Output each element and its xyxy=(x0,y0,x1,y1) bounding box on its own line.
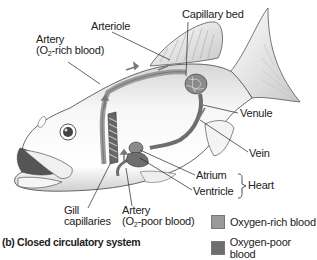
heart-bracket xyxy=(238,174,246,198)
legend-label: Oxygen-poor blood xyxy=(230,236,317,260)
label-vein: Vein xyxy=(249,147,270,159)
gill-capillaries xyxy=(108,112,118,164)
label-arteriole: Arteriole xyxy=(91,20,130,32)
legend-label: Oxygen-rich blood xyxy=(230,216,316,228)
label-heart: Heart xyxy=(248,179,274,191)
label-venule: Venule xyxy=(240,107,272,119)
legend-item-oxygen-poor: Oxygen-poor blood xyxy=(211,236,317,260)
label-artery-rich-line2: (O2-rich blood) xyxy=(36,44,104,58)
label-text: (O xyxy=(36,44,48,56)
label-gill-line2: capillaries xyxy=(64,215,111,227)
label-atrium: Atrium xyxy=(196,169,227,181)
legend-item-oxygen-rich: Oxygen-rich blood xyxy=(211,215,316,229)
dorsal-fin xyxy=(150,22,223,66)
subscript: 2 xyxy=(134,221,138,228)
label-ventricle: Ventricle xyxy=(193,185,233,197)
label-artery-poor-line2: (O2-poor blood) xyxy=(122,215,194,229)
label-text: (O xyxy=(122,215,134,227)
subscript: 2 xyxy=(48,50,52,57)
label-text: -poor blood) xyxy=(138,215,195,227)
label-text: -rich blood) xyxy=(52,44,105,56)
fish-eye xyxy=(60,124,76,140)
label-capillary-bed: Capillary bed xyxy=(182,8,244,20)
legend-swatch-oxygen-rich xyxy=(211,215,225,229)
figure-caption: (b) Closed circulatory system xyxy=(2,236,140,248)
legend-swatch-oxygen-poor xyxy=(211,241,225,255)
capillary-bed xyxy=(185,74,207,94)
